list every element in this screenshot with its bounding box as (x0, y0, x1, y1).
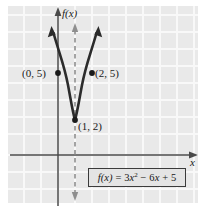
x-axis-label: x (190, 157, 195, 168)
label-symmetric-point: (2, 5) (95, 68, 119, 79)
parabola-figure: f(x) x (0, 5) (2, 5) (1, 2) f(x) = 3x2 −… (0, 0, 205, 213)
equation-box: f(x) = 3x2 − 6x + 5 (88, 168, 186, 187)
y-axis-label: f(x) (62, 8, 77, 19)
equation-lhs: f(x) (98, 172, 113, 183)
label-y-intercept: (0, 5) (22, 68, 46, 79)
point-y-intercept (55, 70, 61, 76)
equation-text: f(x) = 3x2 − 6x + 5 (98, 172, 177, 183)
equation-term2: − 6 (141, 172, 155, 183)
equation-term2-var: x (155, 172, 160, 183)
equation-term3: + 5 (162, 172, 176, 183)
label-vertex: (1, 2) (78, 121, 102, 132)
equation-term1-exponent: 2 (134, 171, 138, 179)
equation-equals: = (115, 172, 121, 183)
